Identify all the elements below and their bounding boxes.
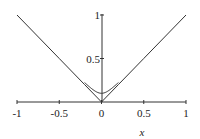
y-ticks: 0.51 bbox=[86, 9, 104, 65]
x-tick-label: 1 bbox=[183, 107, 189, 119]
x-ticks: -1-0.500.51 bbox=[12, 100, 188, 119]
x-tick-label: -1 bbox=[12, 107, 21, 119]
y-tick-label: 1 bbox=[95, 9, 101, 21]
x-axis-label: x bbox=[139, 126, 145, 138]
x-tick-label: 0.5 bbox=[137, 107, 151, 119]
x-tick-label: -0.5 bbox=[51, 107, 69, 119]
chart: -1-0.500.51 0.51 x bbox=[0, 0, 200, 139]
y-tick-label: 0.5 bbox=[86, 53, 100, 65]
x-tick-label: 0 bbox=[99, 107, 105, 119]
